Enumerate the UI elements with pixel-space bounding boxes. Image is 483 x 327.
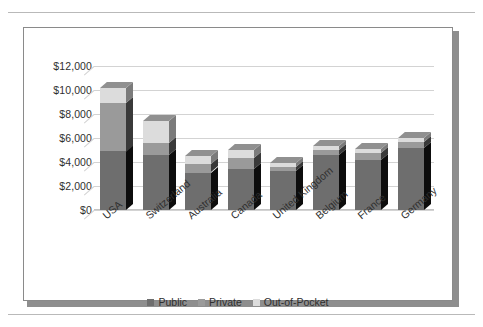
- legend-item[interactable]: Private: [198, 296, 242, 308]
- chart-legend: PublicPrivateOut-of-Pocket: [24, 296, 452, 308]
- chart-frame: $0$2,000$4,000$6,000$8,000$10,000$12,000…: [23, 27, 453, 301]
- bar-segment-private[interactable]: [355, 153, 381, 160]
- bottom-divider-rule: [8, 314, 475, 315]
- plot-area: [94, 66, 434, 210]
- bar-segment-out-of-pocket[interactable]: [185, 156, 211, 164]
- bar-segment-out-of-pocket[interactable]: [228, 150, 254, 158]
- y-axis-labels: $0$2,000$4,000$6,000$8,000$10,000$12,000: [30, 66, 92, 210]
- bar-segment-out-of-pocket[interactable]: [313, 146, 339, 150]
- bar-column[interactable]: [100, 88, 126, 210]
- bar-segment-private[interactable]: [143, 143, 169, 155]
- bar-side-face: [126, 145, 133, 210]
- y-axis-tick-label: $12,000: [53, 60, 92, 72]
- chart-figure: $0$2,000$4,000$6,000$8,000$10,000$12,000…: [0, 0, 483, 327]
- bar-segment-out-of-pocket[interactable]: [398, 138, 424, 142]
- legend-label: Public: [158, 296, 187, 308]
- bar-segment-private[interactable]: [185, 164, 211, 172]
- bar-segment-private[interactable]: [100, 103, 126, 152]
- bar-side-face: [126, 97, 133, 152]
- legend-swatch: [198, 299, 205, 306]
- bar-segment-private[interactable]: [270, 167, 296, 171]
- bar-segment-out-of-pocket[interactable]: [355, 149, 381, 153]
- legend-item[interactable]: Public: [147, 296, 187, 308]
- legend-label: Private: [209, 296, 242, 308]
- bar-segment-private[interactable]: [313, 150, 339, 155]
- legend-swatch: [147, 299, 154, 306]
- legend-item[interactable]: Out-of-Pocket: [253, 296, 329, 308]
- bar-segment-private[interactable]: [398, 142, 424, 148]
- bar-segment-out-of-pocket[interactable]: [270, 163, 296, 167]
- bar-segment-out-of-pocket[interactable]: [143, 121, 169, 143]
- legend-label: Out-of-Pocket: [264, 296, 329, 308]
- bar-series-group: [94, 66, 434, 210]
- y-axis-tick-label: $10,000: [53, 84, 92, 96]
- x-axis-category-labels: USASwitzerlandAustraliaCanadaUnited King…: [94, 212, 434, 282]
- legend-swatch: [253, 299, 260, 306]
- bar-segment-out-of-pocket[interactable]: [100, 88, 126, 103]
- bar-segment-private[interactable]: [228, 158, 254, 169]
- top-divider-rule: [8, 12, 475, 13]
